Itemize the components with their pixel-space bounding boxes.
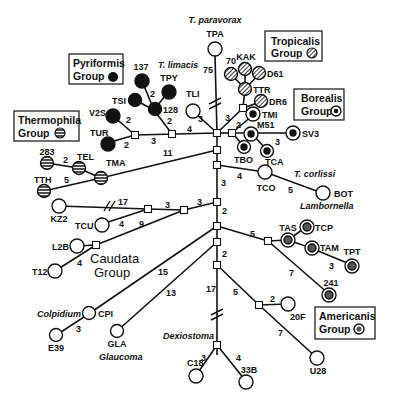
node-TUR xyxy=(101,137,115,151)
svg-text:75: 75 xyxy=(203,65,213,75)
group-caudata: Caudata Group xyxy=(90,251,140,280)
svg-text:U28: U28 xyxy=(310,366,327,376)
svg-text:TTH: TTH xyxy=(34,175,52,185)
node-E39 xyxy=(50,329,63,342)
group-tropicalis: Tropicalis Group xyxy=(265,31,322,61)
svg-text:Caudata: Caudata xyxy=(90,251,140,266)
svg-text:5: 5 xyxy=(64,175,69,185)
node-TPA xyxy=(208,42,222,56)
node-GLA xyxy=(111,325,124,338)
svg-text:T. corlissi: T. corlissi xyxy=(294,169,336,179)
svg-text:4: 4 xyxy=(187,124,192,134)
svg-text:283: 283 xyxy=(39,147,54,157)
svg-text:Group: Group xyxy=(94,265,130,280)
node-TSI xyxy=(129,94,142,107)
svg-text:2: 2 xyxy=(63,155,68,165)
node-TMA xyxy=(95,172,108,185)
svg-text:Lambornella: Lambornella xyxy=(300,201,354,211)
node-TTR xyxy=(239,83,252,96)
node-D61 xyxy=(253,67,266,80)
svg-text:137: 137 xyxy=(133,62,148,72)
svg-text:Colpidium: Colpidium xyxy=(37,309,81,319)
svg-text:Thermophila: Thermophila xyxy=(18,114,81,126)
svg-text:9: 9 xyxy=(139,219,144,229)
svg-text:Group: Group xyxy=(271,47,303,59)
svg-text:15: 15 xyxy=(158,267,168,277)
node-TTH xyxy=(38,185,51,198)
svg-text:13: 13 xyxy=(166,288,176,298)
svg-text:TMI: TMI xyxy=(262,110,278,120)
svg-text:V2S: V2S xyxy=(89,108,106,118)
svg-text:SV3: SV3 xyxy=(302,129,319,139)
svg-text:3: 3 xyxy=(198,114,203,124)
group-pyriformis: Pyriformis Group xyxy=(69,54,125,84)
svg-text:Tropicalis: Tropicalis xyxy=(271,35,320,47)
svg-text:TTR: TTR xyxy=(253,85,271,95)
svg-text:2: 2 xyxy=(236,120,241,130)
svg-text:TLI: TLI xyxy=(186,89,200,99)
svg-text:Glaucoma: Glaucoma xyxy=(99,352,143,362)
svg-text:4: 4 xyxy=(236,353,241,363)
svg-text:2: 2 xyxy=(126,115,131,125)
svg-text:17: 17 xyxy=(206,284,216,294)
svg-text:4: 4 xyxy=(119,219,124,229)
node-TCO xyxy=(258,165,272,179)
node-TEL xyxy=(73,162,86,175)
svg-text:2: 2 xyxy=(222,249,227,259)
svg-text:3: 3 xyxy=(329,261,334,271)
svg-text:TCU: TCU xyxy=(75,221,94,231)
svg-text:T. paravorax: T. paravorax xyxy=(189,15,243,25)
svg-text:241: 241 xyxy=(323,278,338,288)
svg-text:TAS: TAS xyxy=(279,223,296,233)
svg-text:KAK: KAK xyxy=(236,52,256,62)
svg-text:TCA: TCA xyxy=(265,157,284,167)
node-70 xyxy=(225,68,238,81)
svg-text:Group: Group xyxy=(319,323,351,335)
svg-text:M51: M51 xyxy=(257,120,275,130)
svg-text:BOT: BOT xyxy=(334,189,354,199)
svg-text:5: 5 xyxy=(233,287,238,297)
node-283 xyxy=(41,157,54,170)
svg-text:E39: E39 xyxy=(48,343,64,353)
node-KZ2 xyxy=(52,199,66,213)
svg-text:3: 3 xyxy=(221,178,226,188)
svg-text:Pyriformis: Pyriformis xyxy=(73,57,125,69)
svg-text:20F: 20F xyxy=(290,312,306,322)
group-borealis: Borealis Group xyxy=(294,89,344,120)
svg-text:3: 3 xyxy=(76,324,81,334)
phylogenetic-tree: TPA 70 KAK D61 TTR DR6 TMI M51 SV3 TBO T… xyxy=(0,0,393,404)
node-TCU xyxy=(95,218,109,232)
svg-text:2: 2 xyxy=(167,116,172,126)
node-128 xyxy=(149,103,162,116)
node-T12 xyxy=(48,264,62,278)
svg-text:GLA: GLA xyxy=(108,339,127,349)
node-137 xyxy=(135,74,149,88)
svg-text:2: 2 xyxy=(124,140,129,150)
svg-text:5: 5 xyxy=(288,185,293,195)
svg-text:3: 3 xyxy=(225,113,230,123)
svg-text:CPI: CPI xyxy=(98,309,113,319)
svg-text:TMA: TMA xyxy=(106,158,126,168)
svg-text:3: 3 xyxy=(151,136,156,146)
svg-text:TCP: TCP xyxy=(315,223,333,233)
svg-text:2: 2 xyxy=(270,294,275,304)
svg-text:D61: D61 xyxy=(267,69,284,79)
svg-text:3: 3 xyxy=(201,353,206,363)
svg-text:Americanis: Americanis xyxy=(319,310,376,322)
svg-text:KZ2: KZ2 xyxy=(50,214,67,224)
svg-text:33B: 33B xyxy=(241,365,258,375)
node-L2B xyxy=(70,239,84,253)
svg-text:3: 3 xyxy=(165,200,170,210)
svg-text:3: 3 xyxy=(197,197,202,207)
svg-text:128: 128 xyxy=(163,105,178,115)
svg-text:L2B: L2B xyxy=(52,242,70,252)
node-KAK xyxy=(239,63,252,76)
node-V2S xyxy=(106,109,120,123)
svg-text:4: 4 xyxy=(77,258,82,268)
svg-text:17: 17 xyxy=(118,197,128,207)
svg-text:DR6: DR6 xyxy=(269,97,287,107)
group-americanis: Americanis Group xyxy=(315,307,376,339)
svg-text:TUR: TUR xyxy=(90,128,109,138)
node-TPY xyxy=(162,85,176,99)
svg-text:Group: Group xyxy=(73,70,105,82)
